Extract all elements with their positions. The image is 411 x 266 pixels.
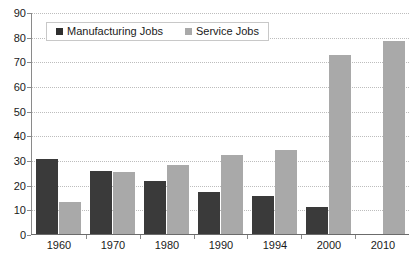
- bar-group: [355, 13, 409, 235]
- bar[interactable]: [252, 196, 274, 235]
- legend-item-manufacturing-jobs: Manufacturing Jobs: [56, 26, 163, 37]
- y-axis-tick: [27, 13, 31, 14]
- legend-swatch-icon: [185, 28, 192, 35]
- x-axis-tick-label: 1990: [194, 240, 248, 251]
- y-axis-tick-label: 90: [14, 8, 26, 19]
- bar-groups: [32, 13, 409, 235]
- x-axis-tick: [355, 235, 356, 239]
- y-axis-tick: [27, 210, 31, 211]
- x-axis-tick-label: 1970: [86, 240, 140, 251]
- x-axis-tick-label: 2010: [356, 240, 410, 251]
- bar[interactable]: [144, 181, 166, 235]
- x-axis-tick: [247, 235, 248, 239]
- y-axis-tick-label: 40: [14, 131, 26, 142]
- legend-label: Service Jobs: [196, 26, 259, 37]
- legend-label: Manufacturing Jobs: [67, 26, 163, 37]
- x-axis-tick: [301, 235, 302, 239]
- bar-group: [32, 13, 86, 235]
- bar[interactable]: [383, 41, 405, 235]
- y-axis-tick-label: 60: [14, 82, 26, 93]
- y-axis-tick: [27, 136, 31, 137]
- bar[interactable]: [59, 202, 81, 235]
- y-axis-tick-label: 50: [14, 106, 26, 117]
- bar-group: [140, 13, 194, 235]
- y-axis-tick: [27, 235, 31, 236]
- y-axis-tick: [27, 186, 31, 187]
- x-axis-line: [31, 234, 409, 235]
- y-axis-tick-label: 10: [14, 205, 26, 216]
- bar[interactable]: [113, 172, 135, 235]
- x-axis-tick-label: 1960: [32, 240, 86, 251]
- legend-swatch-icon: [56, 28, 63, 35]
- bar[interactable]: [221, 155, 243, 235]
- bar[interactable]: [275, 150, 297, 235]
- y-axis-tick-label: 70: [14, 57, 26, 68]
- x-axis-tick-label: 2000: [302, 240, 356, 251]
- legend-item-service-jobs: Service Jobs: [185, 26, 259, 37]
- bar[interactable]: [198, 192, 220, 235]
- x-axis-tick-label: 1994: [248, 240, 302, 251]
- bar[interactable]: [167, 165, 189, 235]
- y-axis-tick: [27, 62, 31, 63]
- chart-legend: Manufacturing Jobs Service Jobs: [46, 22, 269, 41]
- bar[interactable]: [36, 159, 58, 235]
- y-axis-labels: 0102030405060708090: [0, 0, 30, 266]
- x-axis-tick: [140, 235, 141, 239]
- y-axis-tick: [27, 161, 31, 162]
- bar-group: [194, 13, 248, 235]
- x-axis-labels: 1960197019801990199420002010: [32, 240, 410, 251]
- y-axis-tick-label: 0: [20, 230, 26, 241]
- x-axis-tick: [194, 235, 195, 239]
- y-axis-tick: [27, 38, 31, 39]
- y-axis-tick-label: 80: [14, 32, 26, 43]
- bar-group: [86, 13, 140, 235]
- y-axis-tick: [27, 112, 31, 113]
- bar-group: [301, 13, 355, 235]
- x-axis-tick: [86, 235, 87, 239]
- y-axis-tick: [27, 87, 31, 88]
- bar[interactable]: [306, 207, 328, 235]
- plot-area: [31, 13, 409, 235]
- bar-group: [247, 13, 301, 235]
- y-axis-tick-label: 30: [14, 156, 26, 167]
- y-axis-tick-label: 20: [14, 180, 26, 191]
- x-axis-tick-label: 1980: [140, 240, 194, 251]
- bar-chart: 0102030405060708090 19601970198019901994…: [0, 0, 411, 266]
- bar[interactable]: [90, 171, 112, 235]
- bar[interactable]: [329, 55, 351, 235]
